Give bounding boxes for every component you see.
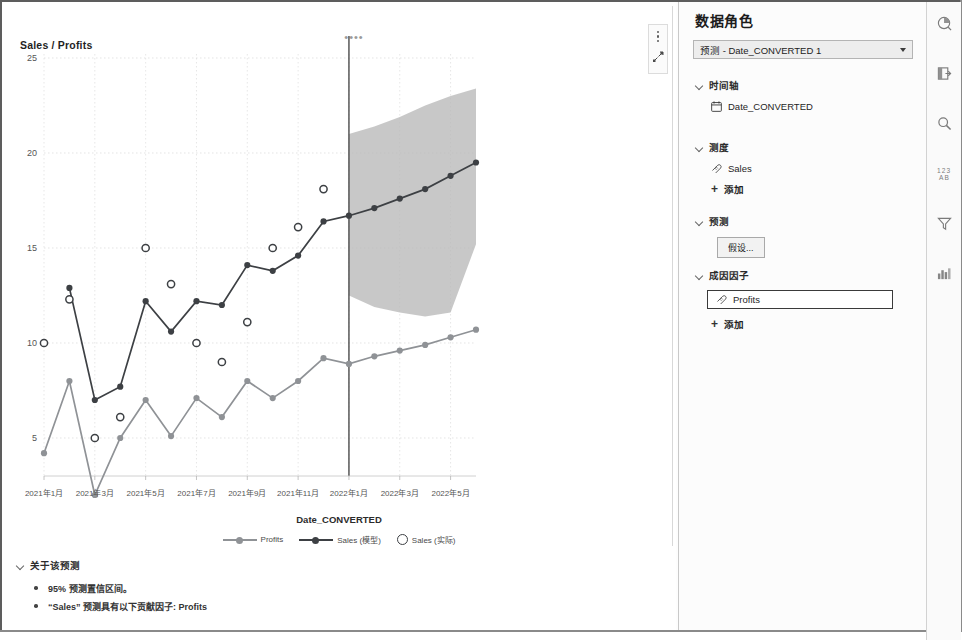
legend-item[interactable]: Sales (实际)	[397, 534, 456, 545]
confidence-band	[349, 88, 476, 316]
svg-text:1: 1	[937, 166, 941, 173]
actual-point	[66, 296, 73, 303]
data-point	[193, 395, 199, 401]
legend-line-icon	[223, 535, 257, 544]
roles-group-header[interactable]: 成因因子	[695, 268, 915, 282]
data-point	[422, 186, 428, 192]
about-forecast-title: 关于该预测	[30, 558, 80, 572]
legend-open-circle-icon	[397, 534, 408, 545]
assumptions-button[interactable]: 假设...	[717, 237, 765, 258]
data-point	[143, 397, 149, 403]
data-point	[320, 355, 326, 361]
forecast-object-select[interactable]: 预测 - Date_CONVERTED 1	[693, 40, 913, 59]
legend-item[interactable]: Sales (模型)	[299, 534, 381, 545]
actual-point	[269, 244, 276, 251]
add-role-label: 添加	[724, 182, 744, 196]
role-item-label: Date_CONVERTED	[728, 101, 813, 112]
roles-group-header[interactable]: 预测	[695, 214, 915, 228]
roles-group-label: 时间轴	[709, 78, 739, 92]
role-item[interactable]: Date_CONVERTED	[695, 101, 915, 112]
svg-text:10: 10	[27, 338, 37, 348]
legend-label: Sales (模型)	[337, 534, 381, 545]
svg-text:2021年5月: 2021年5月	[127, 488, 165, 498]
data-roles-panel: 数据角色 预测 - Date_CONVERTED 1 时间轴Date_CONVE…	[678, 2, 927, 630]
actual-point	[193, 339, 200, 346]
forecast-chart-card: •••• Sales / Profits 5101520252021年1月202…	[6, 6, 673, 546]
about-forecast-section: 关于该预测 95% 预测置信区间。“Sales” 预测具有以下贡献因子: Pro…	[16, 558, 656, 618]
data-point	[397, 196, 403, 202]
calendar-icon	[711, 101, 722, 112]
svg-text:25: 25	[27, 53, 37, 63]
page-options-icon[interactable]	[933, 62, 955, 84]
legend-line-icon	[299, 535, 333, 544]
actual-point	[320, 186, 327, 193]
add-role-button[interactable]: +添加	[695, 182, 915, 196]
svg-text:2022年1月: 2022年1月	[330, 488, 368, 498]
visualization-pane: •••• Sales / Profits 5101520252021年1月202…	[2, 2, 676, 630]
svg-text:A: A	[938, 174, 943, 181]
roles-group-1: 测度Sales+添加	[695, 140, 915, 196]
roles-group-header[interactable]: 测度	[695, 140, 915, 154]
about-forecast-bullets: 95% 预测置信区间。“Sales” 预测具有以下贡献因子: Profits	[34, 582, 656, 613]
add-role-label: 添加	[724, 317, 744, 331]
data-point	[447, 173, 453, 179]
data-point	[447, 334, 453, 340]
data-point	[346, 361, 352, 367]
chevron-down-icon	[900, 48, 906, 52]
svg-text:2022年3月: 2022年3月	[381, 488, 419, 498]
plus-icon: +	[711, 320, 718, 329]
data-point	[371, 353, 377, 359]
data-point	[320, 218, 326, 224]
role-item[interactable]: Profits	[707, 290, 893, 309]
data-point	[92, 397, 98, 403]
data-point	[117, 435, 123, 441]
data-point	[219, 302, 225, 308]
svg-text:3: 3	[946, 166, 950, 173]
legend-label: Profits	[261, 535, 284, 544]
legend-item[interactable]: Profits	[223, 535, 284, 544]
data-point	[244, 262, 250, 268]
actual-point	[244, 319, 251, 326]
roles-group-label: 预测	[709, 214, 729, 228]
forecast-object-select-value: 预测 - Date_CONVERTED 1	[700, 43, 900, 57]
add-role-button[interactable]: +添加	[695, 317, 915, 331]
role-item[interactable]: Sales	[695, 163, 915, 174]
data-point	[270, 268, 276, 274]
svg-text:B: B	[944, 174, 949, 181]
svg-text:2: 2	[941, 166, 945, 173]
actual-point	[295, 224, 302, 231]
data-point	[473, 327, 479, 333]
chart-legend: ProfitsSales (模型)Sales (实际)	[6, 534, 672, 545]
plus-icon: +	[711, 185, 718, 194]
svg-text:2022年5月: 2022年5月	[431, 488, 469, 498]
svg-text:2021年11月: 2021年11月	[277, 488, 319, 498]
forecast-plot: 5101520252021年1月2021年3月2021年5月2021年7月202…	[6, 6, 672, 511]
data-point	[244, 378, 250, 384]
data-icon[interactable]	[933, 12, 955, 34]
roles-group-header[interactable]: 时间轴	[695, 78, 915, 92]
series-line	[44, 330, 476, 495]
search-icon[interactable]	[933, 112, 955, 134]
about-forecast-bullet: “Sales” 预测具有以下贡献因子: Profits	[34, 600, 656, 613]
role-item-label: Sales	[728, 163, 752, 174]
roles-group-3: 成因因子Profits+添加	[695, 268, 915, 331]
data-point	[66, 285, 72, 291]
about-forecast-bullet: 95% 预测置信区间。	[34, 582, 656, 595]
svg-text:15: 15	[27, 243, 37, 253]
data-point	[295, 378, 301, 384]
data-point	[66, 378, 72, 384]
roles-group-label: 成因因子	[709, 268, 749, 282]
data-point	[168, 433, 174, 439]
panel-title: 数据角色	[695, 10, 753, 30]
roles-group-0: 时间轴Date_CONVERTED	[695, 78, 915, 112]
chart-options-icon[interactable]	[933, 262, 955, 284]
data-point	[371, 205, 377, 211]
chevron-down-icon	[695, 81, 703, 89]
data-point	[168, 329, 174, 335]
svg-text:2021年7月: 2021年7月	[177, 488, 215, 498]
roles-group-label: 测度	[709, 140, 729, 154]
filter-icon[interactable]	[933, 212, 955, 234]
about-forecast-header[interactable]: 关于该预测	[16, 558, 656, 572]
data-roles-icon[interactable]: 123AB	[933, 162, 955, 184]
